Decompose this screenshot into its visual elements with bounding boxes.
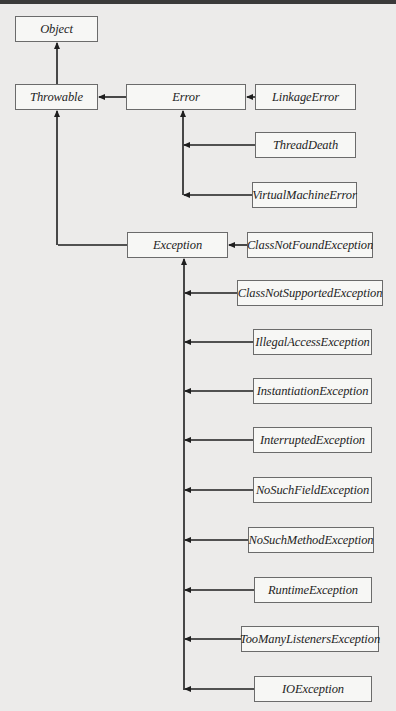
class-node-linkage-error: LinkageError	[255, 84, 356, 110]
class-node-thread-death: ThreadDeath	[255, 132, 356, 158]
class-node-exception: Exception	[127, 232, 228, 258]
class-node-too-many-listeners-exception: TooManyListenersException	[241, 626, 379, 652]
class-node-instantiation-exception: InstantiationException	[253, 378, 372, 404]
class-node-virtual-machine-error: VirtualMachineError	[252, 182, 357, 208]
class-node-class-not-found-exception: ClassNotFoundException	[247, 232, 373, 258]
class-node-no-such-field-exception: NoSuchFieldException	[253, 477, 372, 503]
class-node-no-such-method-exception: NoSuchMethodException	[248, 527, 374, 553]
class-node-object: Object	[15, 16, 98, 42]
class-node-class-not-supported-exception: ClassNotSupportedException	[237, 280, 383, 306]
class-node-runtime-exception: RuntimeException	[254, 577, 372, 603]
class-node-throwable: Throwable	[15, 84, 98, 110]
class-node-illegal-access-exception: IllegalAccessException	[253, 329, 372, 355]
class-node-error: Error	[126, 84, 246, 110]
class-node-io-exception: IOException	[254, 676, 372, 702]
class-node-interrupted-exception: InterruptedException	[253, 427, 372, 453]
